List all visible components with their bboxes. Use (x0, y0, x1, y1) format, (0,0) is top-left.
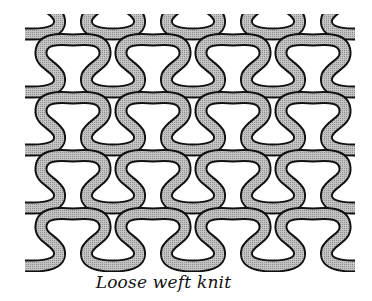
yarn-outline (25, 97, 355, 150)
yarn-rows (0, 0, 372, 266)
yarn-outline (25, 213, 355, 266)
yarn-outline (25, 155, 355, 208)
top-crop (0, 0, 372, 14)
figure-caption: Loose weft knit (0, 272, 327, 292)
weft-knit-illustration (0, 0, 372, 272)
yarn-outline (25, 39, 355, 92)
